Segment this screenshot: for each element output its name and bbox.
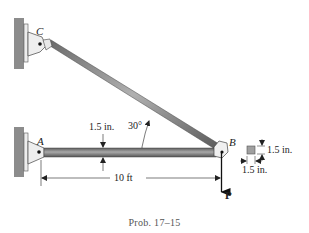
cross-section [240, 139, 265, 164]
section-height-label: 1.5 in. [267, 145, 292, 155]
angle-label: 30° [128, 121, 142, 131]
angle-arc [142, 121, 149, 148]
wall-support-c [14, 18, 28, 69]
horizontal-bar-ab [44, 148, 216, 157]
bar-length-label: 10 ft [114, 173, 133, 183]
point-label-b: B [229, 137, 236, 148]
bar-thickness-label: 1.5 in. [89, 122, 114, 132]
diagonal-rod-cb [43, 39, 219, 149]
diagram-drawing [0, 0, 309, 233]
point-label-a: A [37, 136, 44, 147]
point-label-c: C [36, 26, 43, 37]
section-width-label: 1.5 in. [242, 165, 267, 175]
truss-diagram: C A B 1.5 in. 30° 10 ft P 1.5 in. 1.5 in… [0, 0, 309, 233]
figure-caption: Prob. 17–15 [0, 217, 309, 228]
load-label-p: P [225, 190, 232, 201]
wall-support-a [14, 127, 28, 177]
